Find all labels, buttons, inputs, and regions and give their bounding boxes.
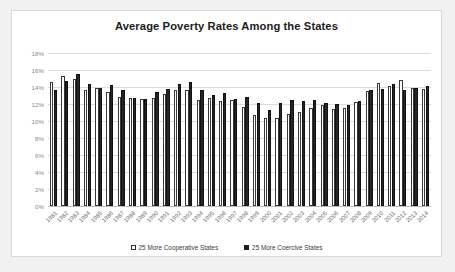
bar-coer-1992[interactable] [178, 84, 181, 206]
bar-group-2003 [296, 53, 307, 206]
bar-group-1992 [172, 53, 183, 206]
legend-label: 25 More Coercive States [252, 244, 322, 251]
x-axis-tick-2007: 2007 [341, 208, 352, 242]
bar-coer-1996[interactable] [223, 93, 226, 206]
bar-coer-2009[interactable] [369, 90, 372, 206]
y-axis-tick-label: 4% [35, 169, 44, 176]
bar-coer-2007[interactable] [347, 105, 350, 206]
bar-coer-2006[interactable] [335, 104, 338, 206]
bar-group-2009 [363, 53, 374, 206]
y-axis-tick-label: 10% [32, 118, 44, 125]
bar-group-1984 [82, 53, 93, 206]
bar-group-2005 [318, 53, 329, 206]
x-axis-tick-2005: 2005 [318, 208, 329, 242]
legend-item-cooperative[interactable]: 25 More Cooperative States [131, 244, 219, 251]
bar-coer-2003[interactable] [302, 101, 305, 206]
bar-coer-1999[interactable] [257, 103, 260, 206]
bar-coer-2014[interactable] [426, 86, 429, 206]
bar-group-1987 [116, 53, 127, 206]
y-axis-tick-label: 18% [32, 50, 44, 57]
bar-coer-2008[interactable] [358, 101, 361, 206]
bar-group-1988 [127, 53, 138, 206]
bar-coer-1998[interactable] [245, 97, 248, 206]
bar-group-2011 [386, 53, 397, 206]
bar-coer-1983[interactable] [76, 74, 79, 206]
bar-coer-1988[interactable] [133, 98, 136, 206]
bar-coer-1997[interactable] [234, 99, 237, 206]
bar-group-1998 [240, 53, 251, 206]
x-axis-tick-2010: 2010 [375, 208, 386, 242]
legend-swatch-icon [244, 245, 249, 250]
x-axis-tick-2003: 2003 [296, 208, 307, 242]
x-axis-tick-1982: 1982 [59, 208, 70, 242]
bar-coer-2002[interactable] [290, 100, 293, 206]
y-axis-tick-label: 0% [35, 203, 44, 210]
bar-group-2000 [262, 53, 273, 206]
bar-group-1999 [251, 53, 262, 206]
x-axis-tick-2004: 2004 [307, 208, 318, 242]
x-axis-tick-1990: 1990 [149, 208, 160, 242]
bar-coer-1982[interactable] [65, 81, 68, 206]
bar-coer-1991[interactable] [166, 89, 169, 206]
bar-coer-1995[interactable] [212, 95, 215, 206]
y-axis-tick-label: 6% [35, 152, 44, 159]
bar-coer-1985[interactable] [99, 88, 102, 206]
x-axis-tick-1999: 1999 [251, 208, 262, 242]
x-axis-tick-1983: 1983 [71, 208, 82, 242]
bar-group-1996 [217, 53, 228, 206]
bar-group-1991 [161, 53, 172, 206]
bar-coer-1986[interactable] [110, 85, 113, 206]
bar-group-2006 [330, 53, 341, 206]
x-axis-tick-2006: 2006 [330, 208, 341, 242]
x-axis-tick-2001: 2001 [273, 208, 284, 242]
bar-coer-1984[interactable] [88, 84, 91, 206]
bar-coer-1994[interactable] [200, 90, 203, 206]
bar-group-2001 [273, 53, 284, 206]
x-axis-tick-1987: 1987 [116, 208, 127, 242]
bar-coer-2013[interactable] [414, 88, 417, 206]
x-axis-tick-2014: 2014 [420, 208, 431, 242]
bar-coer-2000[interactable] [268, 110, 271, 206]
bar-coer-2011[interactable] [392, 84, 395, 206]
bar-group-2014 [420, 53, 431, 206]
x-axis-tick-1993: 1993 [183, 208, 194, 242]
x-axis-tick-1986: 1986 [104, 208, 115, 242]
bar-coer-2004[interactable] [313, 100, 316, 206]
x-axis-tick-1991: 1991 [161, 208, 172, 242]
bar-group-1994 [194, 53, 205, 206]
x-axis-tick-1984: 1984 [82, 208, 93, 242]
legend-label: 25 More Cooperative States [139, 244, 219, 251]
bar-coer-2012[interactable] [403, 90, 406, 206]
bar-coer-2001[interactable] [279, 103, 282, 206]
x-axis-tick-2011: 2011 [386, 208, 397, 242]
bar-coer-1989[interactable] [144, 99, 147, 206]
legend-item-coercive[interactable]: 25 More Coercive States [244, 244, 322, 251]
bar-group-1989 [138, 53, 149, 206]
x-axis-tick-1981: 1981 [48, 208, 59, 242]
chart-legend: 25 More Cooperative States25 More Coerci… [12, 244, 441, 251]
bar-group-2012 [397, 53, 408, 206]
bar-group-1993 [183, 53, 194, 206]
y-axis-tick-label: 12% [32, 101, 44, 108]
bar-coer-2005[interactable] [324, 103, 327, 206]
bar-coer-1981[interactable] [54, 90, 57, 206]
x-axis-tick-2012: 2012 [397, 208, 408, 242]
x-axis-tick-2000: 2000 [262, 208, 273, 242]
bars-layer [48, 53, 431, 206]
x-axis-tick-1998: 1998 [240, 208, 251, 242]
x-axis-tick-1997: 1997 [228, 208, 239, 242]
bar-group-1981 [48, 53, 59, 206]
bar-group-1997 [228, 53, 239, 206]
bar-coer-2010[interactable] [381, 89, 384, 206]
bar-group-2010 [375, 53, 386, 206]
bar-coer-1993[interactable] [189, 82, 192, 206]
y-axis-tick-label: 2% [35, 186, 44, 193]
x-axis-labels: 1981198219831984198519861987198819891990… [48, 208, 431, 242]
x-axis-tick-2013: 2013 [409, 208, 420, 242]
gridline-0pct [48, 206, 431, 207]
bar-coer-1987[interactable] [121, 90, 124, 206]
x-axis-tick-1994: 1994 [194, 208, 205, 242]
bar-group-1985 [93, 53, 104, 206]
bar-coer-1990[interactable] [155, 92, 158, 206]
x-axis-tick-2008: 2008 [352, 208, 363, 242]
